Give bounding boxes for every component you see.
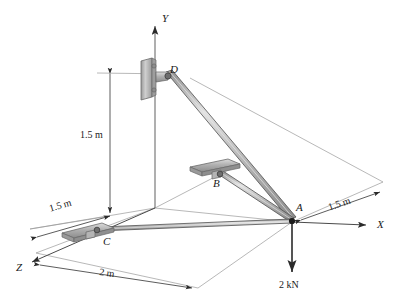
point-label-b: B [213, 178, 220, 189]
dimension-label-depth: 2 m [99, 267, 116, 279]
dimension-depth-2m [40, 265, 192, 288]
member-ac [98, 219, 292, 231]
dimension-label-height: 1.5 m [80, 130, 103, 140]
point-label-a: A [296, 202, 303, 213]
point-label-d: D [170, 64, 178, 75]
support-d [141, 58, 171, 100]
axis-label-y: Y [162, 13, 168, 24]
point-label-c: C [103, 236, 110, 247]
figure-canvas: Y X Z A B C D 1.5 m 1.5 m 1.5 m 2 m 2 kN [0, 0, 398, 306]
axis-label-x: X [377, 219, 384, 230]
x-axis-line [292, 222, 366, 225]
axis-label-z: Z [16, 262, 22, 273]
member-ad [166, 70, 296, 220]
diagram-svg [0, 0, 398, 306]
support-b [190, 159, 240, 179]
load-label-2kn: 2 kN [279, 280, 299, 290]
ground-plane-construction-lines [30, 73, 383, 288]
